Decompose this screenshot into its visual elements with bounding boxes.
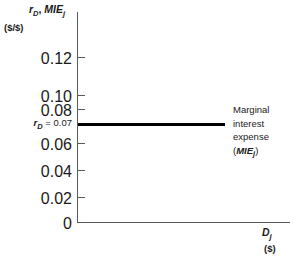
y-axis-units-label: ($/$) [4,23,24,33]
rd-value: 0.07 [54,117,73,128]
y-axis-symbol-rd-sub: D [33,9,38,18]
x-axis-units-label: ($) [264,244,276,254]
mie-annotation-line-3: expense [233,130,269,144]
y-tick-label-rd-highlight: rD = 0.07 [0,118,72,128]
y-axis-symbol-mie-sub: j [63,9,65,18]
x-axis-symbol: D [262,226,270,238]
y-tick-label-0.02: 0.02 [0,191,72,208]
y-tick-label-0.04: 0.04 [0,164,72,181]
y-tick-mark-0.06 [78,143,85,144]
y-tick-mark-0.10 [78,95,85,96]
chart-figure: rD, MIEj ($/$) 0.12 0.10 0.08 0.06 0.04 … [0,0,294,267]
y-tick-label-0.12: 0.12 [0,51,72,68]
x-axis-symbol-sub: j [270,232,272,241]
y-tick-mark-0.08 [78,109,85,110]
mie-curve-line [78,123,225,126]
rd-symbol: rD [34,117,43,128]
y-tick-mark-0.12 [78,57,85,58]
y-tick-label-0: 0 [0,216,72,233]
y-tick-label-0.06: 0.06 [0,137,72,154]
rd-equals: = [43,117,54,128]
mie-annotation: Marginal interest expense (MIEj) [233,103,269,158]
y-axis-line [77,12,78,223]
y-tick-mark-0.04 [78,170,85,171]
y-axis-title: rD, MIEj [29,4,65,15]
mie-annotation-line-2: interest [233,117,269,131]
x-axis-title: Dj [262,227,272,238]
y-axis-symbol-mie: MIE [44,3,63,15]
mie-annotation-symbol: (MIEj) [233,144,269,159]
mie-annotation-line-1: Marginal [233,103,269,117]
y-tick-mark-0.02 [78,197,85,198]
x-axis-line [77,222,290,223]
